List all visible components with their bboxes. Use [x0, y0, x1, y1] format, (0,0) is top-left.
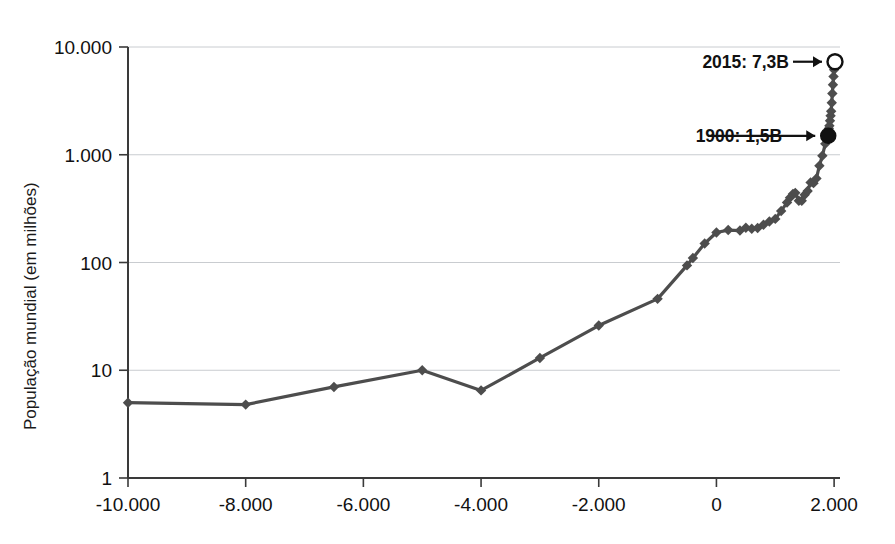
annotation-label: 2015: 7,3B	[702, 52, 789, 72]
x-tick-label: -10.000	[96, 494, 160, 515]
y-axis-title: População mundial (em milhões)	[21, 182, 40, 430]
chart-canvas: 10.0001.000100101 -10.000-8.000-6.000-4.…	[0, 0, 895, 544]
annotation-arrowhead	[806, 130, 815, 141]
data-point-marker	[123, 397, 133, 407]
x-tick-label: -6.000	[336, 494, 390, 515]
data-point-marker	[240, 399, 250, 409]
data-point-marker	[329, 382, 339, 392]
data-series-group	[123, 57, 840, 410]
x-tick-group: -10.000-8.000-6.000-4.000-2.00002.000	[96, 478, 858, 515]
data-point-marker	[817, 151, 827, 161]
highlight-marker-filled	[821, 128, 836, 143]
data-point-marker	[827, 98, 837, 108]
y-tick-label: 1	[101, 468, 112, 489]
x-tick-label: -8.000	[219, 494, 273, 515]
y-tick-label: 1.000	[64, 145, 112, 166]
annotations-group: 2015: 7,3B1900: 1,5B	[696, 52, 843, 146]
data-point-marker	[827, 88, 837, 98]
y-tick-label: 10	[91, 360, 112, 381]
x-tick-label: -4.000	[454, 494, 508, 515]
highlight-marker-open	[827, 54, 842, 69]
data-point-marker	[723, 225, 733, 235]
data-point-marker	[417, 365, 427, 375]
y-tick-label: 10.000	[54, 37, 112, 58]
y-tick-group: 10.0001.000100101	[54, 37, 128, 489]
x-tick-label: -2.000	[572, 494, 626, 515]
gridlines-group	[128, 47, 840, 478]
population-chart: 10.0001.000100101 -10.000-8.000-6.000-4.…	[0, 0, 895, 544]
data-point-marker	[828, 80, 838, 90]
x-tick-label: 2.000	[810, 494, 858, 515]
annotation-arrowhead	[813, 56, 822, 67]
x-tick-label: 0	[711, 494, 722, 515]
data-point-marker	[814, 161, 824, 171]
y-tick-label: 100	[80, 253, 112, 274]
